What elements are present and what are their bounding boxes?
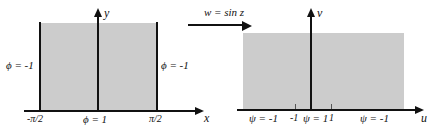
left-boundary-line-minus-pi-over-2 [39, 22, 41, 111]
left-x-axis-arrowhead-icon [195, 107, 204, 115]
right-u-axis-name: u [421, 112, 427, 124]
left-y-axis-name: y [104, 7, 109, 19]
mapping-arrow-head-icon [242, 21, 252, 31]
conformal-mapping-figure: x y ϕ = -1 ϕ = -1 -π/2 π/2 ϕ = 1 w = sin… [0, 0, 440, 134]
right-axis-label-psi-pos: ψ = 1 [303, 113, 328, 124]
left-tick-label-minus-pi-over-2: -π/2 [27, 114, 43, 124]
left-boundary-label-left: ϕ = -1 [6, 60, 34, 71]
left-y-axis-arrowhead-icon [94, 8, 102, 17]
left-shaded-strip [41, 23, 157, 110]
right-v-axis-name: v [317, 7, 322, 19]
mapping-formula-label: w = sin z [204, 7, 244, 18]
left-y-axis [97, 16, 99, 111]
right-u-axis [237, 109, 417, 111]
left-x-axis-name: x [204, 112, 209, 124]
right-v-axis-arrowhead-icon [307, 8, 315, 17]
left-boundary-line-plus-pi-over-2 [156, 22, 158, 111]
left-base-label: ϕ = 1 [83, 114, 107, 125]
right-axis-label-psi-neg-left: ψ = -1 [249, 113, 278, 124]
left-tick-label-plus-pi-over-2: π/2 [149, 114, 162, 124]
right-axis-label-psi-neg-right: ψ = -1 [360, 113, 389, 124]
right-shaded-halfplane [243, 33, 404, 109]
left-boundary-label-right: ϕ = -1 [161, 60, 189, 71]
right-axis-label-plus-one: 1 [329, 113, 334, 123]
right-tick-minus-one [295, 104, 296, 109]
right-v-axis [310, 16, 312, 110]
mapping-arrow-shaft [188, 24, 244, 26]
left-x-axis [24, 110, 197, 112]
right-axis-label-minus-one: -1 [290, 113, 298, 123]
right-tick-plus-one [331, 104, 332, 109]
